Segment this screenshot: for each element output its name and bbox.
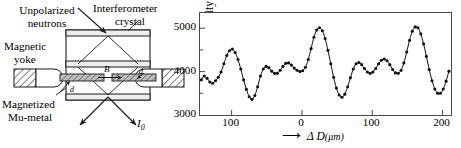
- label-magnetic-yoke: Magnetic yoke: [4, 40, 76, 65]
- label-unpolarized-neutrons: Unpolarized neutrons: [6, 4, 88, 29]
- chart-plot-svg: [200, 13, 451, 115]
- magnetized-mu-metal-line1: Magnetized: [2, 98, 55, 110]
- label-gap-d-left: d: [70, 84, 74, 96]
- chart-x-tick-label: 0: [281, 116, 321, 128]
- unpolarized-neutrons-line1: Unpolarized: [19, 4, 74, 16]
- chart-x-tick-label: 200: [422, 116, 461, 128]
- outgoing-beams: [80, 97, 136, 125]
- magnetic-yoke-line1: Magnetic: [4, 40, 46, 52]
- label-magnetized-mu-metal: Magnetized Mu-metal: [2, 98, 88, 123]
- chart-x-tick-label: 100: [351, 116, 391, 128]
- label-output-beam-i0: I0: [137, 118, 145, 134]
- output-beam-subscript: 0: [141, 123, 145, 132]
- label-magnetic-field-b: B: [104, 64, 110, 76]
- chart-y-tick-label: 4000: [174, 64, 199, 76]
- interferometer-crystal-line1: Interferometer: [93, 2, 158, 14]
- intensity-chart: ⟶ Intensity I0 ⟶ Δ D(μm) 300040005000100…: [198, 0, 461, 148]
- chart-plot-frame: [199, 12, 452, 116]
- magnetic-yoke-left-pole: [14, 69, 63, 87]
- magnetic-yoke-line2: yoke: [14, 53, 36, 66]
- figure-container: Unpolarized neutrons Interferometer crys…: [0, 0, 461, 148]
- label-gap-d-right: d: [139, 66, 143, 78]
- x-axis-arrow-icon: ⟶: [282, 128, 300, 143]
- interferometer-crystal-line2: crystal: [115, 15, 145, 28]
- chart-x-axis-label: ⟶ Δ D(μm): [238, 128, 388, 144]
- apparatus-diagram: Unpolarized neutrons Interferometer crys…: [0, 0, 200, 148]
- label-interferometer-crystal: Interferometer crystal: [93, 2, 183, 27]
- chart-y-tick-label: 5000: [174, 20, 199, 32]
- chart-y-tick-label: 3000: [174, 107, 199, 119]
- unpolarized-neutrons-line2: neutrons: [28, 17, 67, 29]
- chart-x-tick-label: 100: [211, 116, 251, 128]
- magnetized-mu-metal-line2: Mu-metal: [8, 111, 52, 124]
